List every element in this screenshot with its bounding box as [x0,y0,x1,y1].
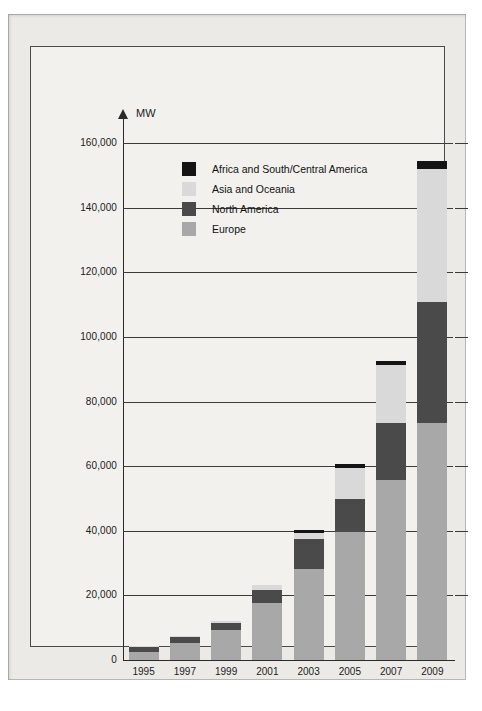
x-axis-label-1997: 1997 [163,666,207,677]
y-axis-tick [455,531,468,532]
bar-segment [294,569,324,660]
y-axis-tick [455,402,468,403]
bar-segment [417,169,447,301]
bar-segment [170,643,200,660]
x-axis-label-2009: 2009 [410,666,454,677]
bar-2001 [252,585,282,660]
y-axis-unit-label: MW [136,107,156,119]
bar-segment [376,423,406,481]
y-axis-tick-label: 40,000 [53,525,117,536]
bar-2005 [335,464,365,660]
legend-swatch-icon [182,162,196,176]
legend-label: Europe [212,223,246,235]
chart-legend: Africa and South/Central AmericaAsia and… [182,159,402,239]
chart-frame: MW 020,00040,00060,00080,000100,000120,0… [30,46,445,647]
bar-2003 [294,530,324,660]
bar-segment [335,499,365,532]
bar-segment [376,365,406,423]
x-axis-label-2003: 2003 [287,666,331,677]
legend-label: Asia and Oceania [212,183,295,195]
y-axis-tick-label: 120,000 [53,266,117,277]
y-axis-tick-label: 60,000 [53,460,117,471]
y-axis-tick-label: 80,000 [53,396,117,407]
bar-segment [252,603,282,660]
legend-item: Europe [182,219,402,239]
legend-swatch-icon [182,202,196,216]
chart-page: MW 020,00040,00060,00080,000100,000120,0… [0,0,482,711]
bar-segment [129,652,159,660]
legend-label: Africa and South/Central America [212,163,367,175]
legend-swatch-icon [182,222,196,236]
bar-1999 [211,621,241,660]
y-axis-tick-label: 0 [53,654,117,665]
bar-2007 [376,361,406,660]
x-axis-line [123,660,455,661]
legend-item: Africa and South/Central America [182,159,402,179]
bar-segment [252,590,282,603]
x-axis-label-1995: 1995 [122,666,166,677]
bar-segment [335,468,365,499]
legend-label: North America [212,203,279,215]
bar-segment [335,532,365,660]
bar-segment [417,161,447,169]
y-axis-tick [455,466,468,467]
y-axis-tick-label: 160,000 [53,137,117,148]
legend-swatch-icon [182,182,196,196]
bar-segment [294,539,324,569]
bar-segment [417,423,447,660]
y-axis-tick-label: 140,000 [53,202,117,213]
x-axis-label-2007: 2007 [369,666,413,677]
x-axis-label-1999: 1999 [204,666,248,677]
y-axis-tick [455,337,468,338]
legend-item: North America [182,199,402,219]
y-axis-tick [455,595,468,596]
bar-segment [417,302,447,423]
legend-item: Asia and Oceania [182,179,402,199]
y-axis-tick-label: 100,000 [53,331,117,342]
y-axis-tick [455,143,468,144]
bar-1997 [170,636,200,660]
bar-segment [211,623,241,630]
y-axis-tick [455,272,468,273]
y-axis-arrow-icon [118,109,128,119]
x-axis-label-2005: 2005 [328,666,372,677]
y-axis-tick [455,208,468,209]
bar-segment [376,480,406,660]
bar-2009 [417,161,447,660]
bar-1995 [129,646,159,660]
x-axis-label-2001: 2001 [245,666,289,677]
bar-segment [211,630,241,660]
y-axis-tick-label: 20,000 [53,589,117,600]
